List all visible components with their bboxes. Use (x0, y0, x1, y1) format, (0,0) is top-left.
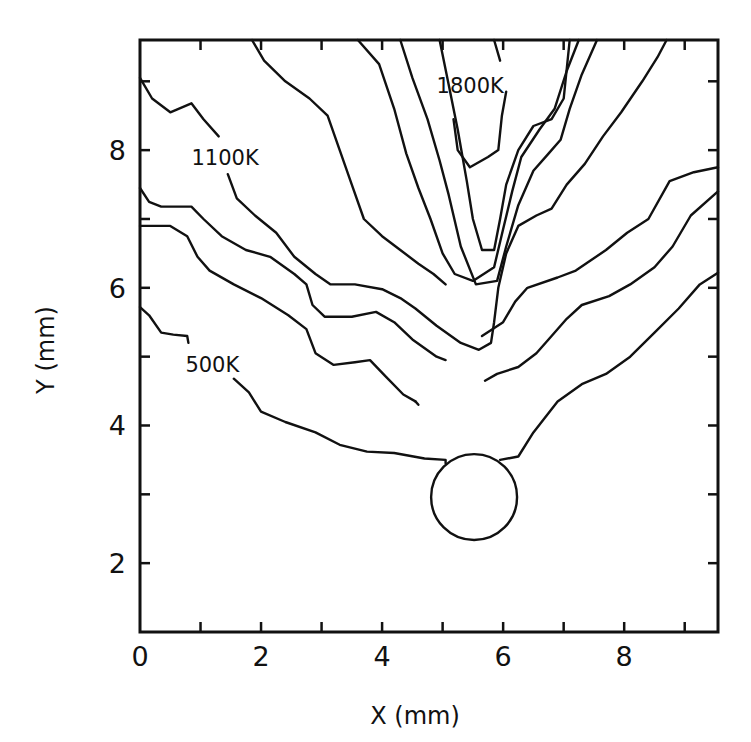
contour-line (140, 226, 415, 402)
x-tick-label: 8 (616, 641, 633, 672)
y-tick-label: 8 (109, 135, 126, 166)
contour-label: 1100K (191, 146, 259, 170)
contour-line (140, 78, 219, 136)
x-tick-label: 0 (131, 641, 148, 672)
contour-lines (140, 40, 718, 463)
contour-label: 1800K (437, 74, 505, 98)
contour-line (140, 188, 446, 360)
obstacle-circle (431, 454, 517, 540)
plot-frame (140, 40, 718, 632)
y-axis-title: Y (mm) (32, 306, 60, 395)
contour-line (140, 307, 188, 343)
y-tick-label: 6 (109, 273, 126, 304)
contour-label: 500K (185, 353, 240, 377)
tick-labels: 024682468 (109, 135, 633, 672)
axis-ticks (140, 40, 718, 632)
contour-chart: 024682468 X (mm) Y (mm) 500K1100K1800K (0, 0, 751, 742)
contour-line (494, 40, 500, 61)
x-axis-title: X (mm) (370, 702, 460, 730)
contour-line (252, 40, 446, 284)
contour-line (482, 167, 718, 336)
y-tick-label: 4 (109, 410, 126, 441)
x-tick-label: 2 (252, 641, 269, 672)
contour-line (485, 191, 718, 380)
contour-line (500, 273, 718, 460)
contour-line (415, 401, 418, 404)
contour-line (234, 379, 446, 464)
y-tick-label: 2 (109, 548, 126, 579)
contour-labels: 500K1100K1800K (185, 74, 505, 377)
x-tick-label: 4 (374, 641, 391, 672)
contour-line (454, 92, 507, 168)
x-tick-label: 6 (495, 641, 512, 672)
